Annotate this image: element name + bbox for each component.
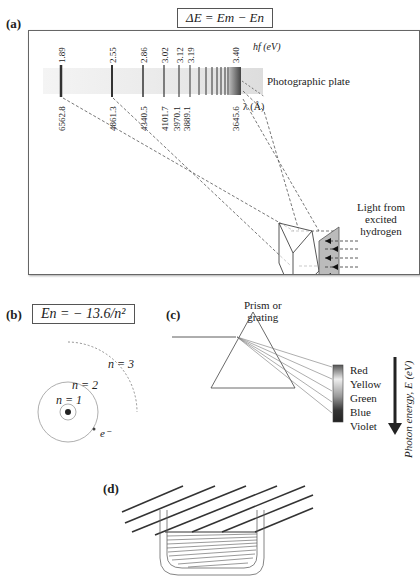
energy-label: 3.12 (175, 47, 185, 63)
color-labels: Red Yellow Green Blue Violet (350, 363, 381, 433)
energy-difference-formula: ΔE = Em − En (177, 8, 273, 28)
energy-label: 2.55 (108, 47, 118, 63)
beaker-light-diagram (100, 470, 350, 579)
color-label-green: Green (350, 391, 381, 405)
electron (93, 428, 96, 431)
hydrogen-spectrum-panel: 1.89 2.55 2.86 3.02 3.12 3.19 3.40 6562.… (28, 30, 420, 275)
wavelength-label: 6562.8 (57, 106, 67, 131)
wavelength-label: 4340.5 (139, 106, 149, 131)
color-label-red: Red (350, 363, 381, 377)
photon-energy-axis-label: Photon energy, E (eV) (402, 361, 414, 458)
energy-label: 1.89 (57, 47, 67, 63)
color-label-yellow: Yellow (350, 377, 381, 391)
energy-label: 2.86 (139, 47, 149, 63)
color-label-blue: Blue (350, 405, 381, 419)
wavelength-label: 3970.1 (172, 106, 182, 131)
bohr-atom-diagram (0, 320, 180, 470)
source-label-line1: Light from (357, 201, 405, 213)
source-label: Light from excited hydrogen (357, 201, 405, 237)
wavelength-label: 3889.1 (182, 106, 192, 131)
energy-arrow-head-icon (388, 423, 402, 435)
electron-label: e⁻ (100, 427, 111, 440)
wavelength-label: 4861.3 (108, 106, 118, 131)
color-spectrum-bar (333, 365, 343, 422)
color-label-violet: Violet (350, 419, 381, 433)
source-label-line2: excited (357, 213, 405, 225)
nucleus (65, 409, 71, 415)
energy-label: 3.02 (160, 47, 170, 63)
source-label-line3: hydrogen (357, 225, 405, 237)
orbit-label-n3: n = 3 (108, 357, 134, 372)
wavelength-label: 4101.7 (160, 106, 170, 131)
energy-axis-label: hf (eV) (253, 41, 281, 52)
orbit-label-n2: n = 2 (72, 378, 98, 393)
wavelength-axis-label: λ (Å) (243, 101, 264, 112)
dispersed-rays (237, 337, 332, 413)
refracted-rays (167, 534, 257, 567)
energy-label: 3.40 (231, 47, 241, 63)
plate-label: Photographic plate (267, 75, 350, 87)
spectrum-diagram (29, 31, 419, 274)
panel-a-label: (a) (6, 16, 21, 32)
wavelength-label: 3645.6 (231, 106, 241, 131)
energy-label: 3.19 (186, 47, 196, 63)
orbit-label-n1: n = 1 (56, 393, 82, 408)
incident-light-rays (122, 486, 313, 535)
